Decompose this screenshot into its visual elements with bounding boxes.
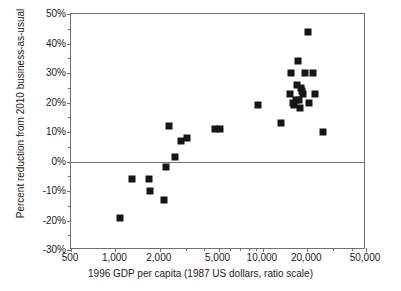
y-axis-minor-tick xyxy=(68,206,71,207)
x-axis-minor-tick xyxy=(204,248,205,251)
y-axis-tick xyxy=(67,14,71,15)
x-axis-tick-label: 2,000 xyxy=(146,252,171,263)
plot-area xyxy=(70,13,365,249)
data-point xyxy=(165,123,172,130)
data-point xyxy=(306,99,313,106)
y-axis-title: Percent reduction from 2010 business-as-… xyxy=(15,0,26,238)
data-point xyxy=(160,196,167,203)
y-axis-minor-tick xyxy=(68,176,71,177)
data-point xyxy=(255,102,262,109)
y-axis-tick-label: 50% xyxy=(32,8,66,19)
y-axis-minor-tick xyxy=(68,58,71,59)
zero-reference-line xyxy=(71,162,364,163)
y-axis-tick xyxy=(67,162,71,163)
y-axis-tick-label: 0% xyxy=(32,155,66,166)
y-axis-tick xyxy=(67,103,71,104)
y-axis-tick-label: -20% xyxy=(32,214,66,225)
data-point xyxy=(304,28,311,35)
y-axis-tick xyxy=(67,221,71,222)
data-point xyxy=(183,134,190,141)
data-point xyxy=(319,129,326,136)
x-axis-minor-tick xyxy=(230,248,231,251)
y-axis-tick-label: 30% xyxy=(32,67,66,78)
x-axis-minor-tick xyxy=(186,248,187,251)
data-point xyxy=(172,154,179,161)
data-point xyxy=(301,70,308,77)
x-axis-minor-tick xyxy=(333,248,334,251)
x-axis-minor-tick xyxy=(352,248,353,251)
data-point xyxy=(300,90,307,97)
y-axis-tick xyxy=(67,73,71,74)
data-point xyxy=(146,176,153,183)
x-axis-minor-tick xyxy=(240,248,241,251)
x-axis-tick-label: 20,000 xyxy=(291,252,322,263)
y-axis-tick xyxy=(67,132,71,133)
x-axis-tick-label: 50,000 xyxy=(350,252,381,263)
data-point xyxy=(216,126,223,133)
data-point xyxy=(129,176,136,183)
scatter-chart-figure: Percent reduction from 2010 business-as-… xyxy=(0,0,401,291)
x-axis-minor-tick xyxy=(256,248,257,251)
data-point xyxy=(277,120,284,127)
data-point xyxy=(295,58,302,65)
x-axis-minor-tick xyxy=(249,248,250,251)
y-axis-tick-label: 10% xyxy=(32,126,66,137)
y-axis-minor-tick xyxy=(68,117,71,118)
y-axis-minor-tick xyxy=(68,235,71,236)
y-axis-minor-tick xyxy=(68,88,71,89)
data-point xyxy=(311,90,318,97)
y-axis-tick xyxy=(67,191,71,192)
y-axis-minor-tick xyxy=(68,147,71,148)
y-axis-tick-label: -10% xyxy=(32,185,66,196)
x-axis-tick-label: 500 xyxy=(62,252,79,263)
y-axis-tick-label: 40% xyxy=(32,37,66,48)
data-point xyxy=(309,70,316,77)
y-axis-tick-label: 20% xyxy=(32,96,66,107)
x-axis-title: 1996 GDP per capita (1987 US dollars, ra… xyxy=(0,268,401,279)
data-point xyxy=(162,164,169,171)
data-point xyxy=(296,105,303,112)
data-point xyxy=(288,70,295,77)
data-point xyxy=(147,188,154,195)
x-axis-tick-label: 10,000 xyxy=(247,252,278,263)
y-axis-tick xyxy=(67,44,71,45)
data-point xyxy=(117,214,124,221)
x-axis-tick-label: 1,000 xyxy=(102,252,127,263)
y-axis-minor-tick xyxy=(68,29,71,30)
x-axis-tick-label: 5,000 xyxy=(205,252,230,263)
